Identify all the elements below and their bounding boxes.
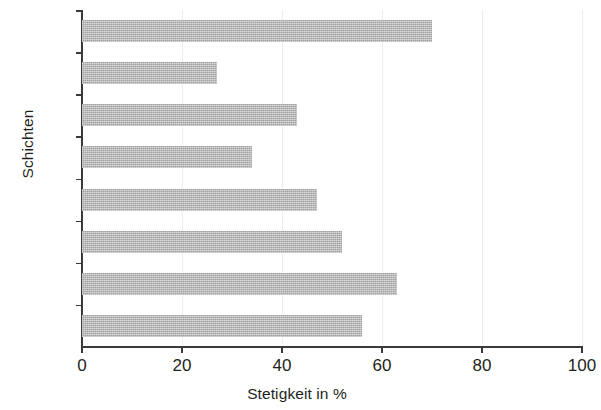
x-axis-tick-label: 0: [52, 356, 112, 376]
bar: [82, 20, 432, 42]
bar: [82, 146, 252, 168]
x-axis-tick-label: 100: [552, 356, 601, 376]
y-axis-tick: [76, 179, 83, 181]
x-axis-tick: [581, 346, 583, 353]
gridline: [282, 10, 283, 347]
bar: [82, 273, 397, 295]
y-axis-tick: [76, 52, 83, 54]
bar: [82, 231, 342, 253]
y-axis-tick: [76, 10, 83, 12]
y-axis-tick: [76, 263, 83, 265]
plot-area: EztJ-LIHGFED: [82, 10, 582, 347]
y-axis-tick: [76, 94, 83, 96]
x-axis-tick-label: 40: [252, 356, 312, 376]
gridline: [182, 10, 183, 347]
bar: [82, 315, 362, 337]
bar: [82, 104, 297, 126]
x-axis-tick-label: 60: [352, 356, 412, 376]
x-axis-tick: [81, 346, 83, 353]
x-axis-tick: [481, 346, 483, 353]
x-axis-tick: [381, 346, 383, 353]
bar: [82, 62, 217, 84]
gridline: [382, 10, 383, 347]
y-axis-title: Schichten: [19, 74, 37, 214]
x-axis-tick: [281, 346, 283, 353]
x-axis-title: Stetigkeit in %: [0, 385, 594, 403]
x-axis-tick-label: 20: [152, 356, 212, 376]
y-axis-tick: [76, 305, 83, 307]
y-axis-tick: [76, 136, 83, 138]
y-axis-tick: [76, 221, 83, 223]
gridline: [582, 10, 583, 347]
gridline: [482, 10, 483, 347]
bar: [82, 189, 317, 211]
x-axis-tick-label: 80: [452, 356, 512, 376]
x-axis-tick: [181, 346, 183, 353]
